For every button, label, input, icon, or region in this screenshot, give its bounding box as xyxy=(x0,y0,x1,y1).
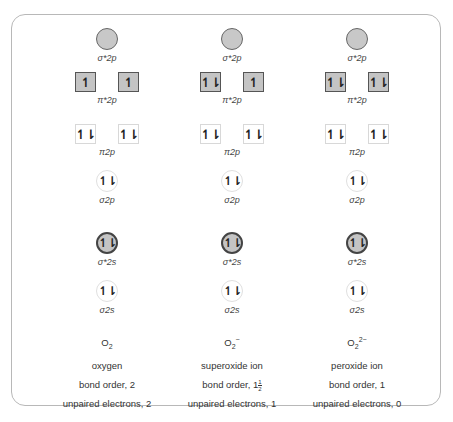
pi-star-2p-orbital: ↿ xyxy=(243,72,264,92)
sigma-2s-orbital: ↿⇂ xyxy=(221,280,243,302)
pi-star-2p-orbital: ↿⇂ xyxy=(325,72,346,92)
sigma-star-2p-level: σ*2p xyxy=(282,28,432,63)
pi-2p-orbital: ↿⇂ xyxy=(243,124,264,144)
orbital-label: σ*2s xyxy=(282,257,432,267)
sigma-2p-orbital: ↿⇂ xyxy=(221,170,243,192)
sigma-star-2s-orbital: ↿⇂ xyxy=(346,232,368,254)
sigma-2p-level: ↿⇂ σ2p xyxy=(282,170,432,205)
bond-order: bond order, 1 xyxy=(282,375,432,394)
orbital-label: π2p xyxy=(282,147,432,157)
sigma-2s-orbital: ↿⇂ xyxy=(346,280,368,302)
pi-star-2p-orbital: ↿ xyxy=(118,72,139,92)
unpaired-electrons: unpaired electrons, 0 xyxy=(282,394,432,413)
sigma-star-2s-orbital: ↿⇂ xyxy=(96,232,118,254)
sigma-2p-orbital: ↿⇂ xyxy=(96,170,118,192)
sigma-2p-orbital: ↿⇂ xyxy=(346,170,368,192)
sigma-2s-level: ↿⇂ σ2s xyxy=(282,280,432,315)
pi-2p-orbital: ↿⇂ xyxy=(118,124,139,144)
pi-star-2p-orbital: ↿⇂ xyxy=(200,72,221,92)
pi-2p-level: ↿⇂ ↿⇂ π2p xyxy=(282,124,432,157)
species-name: peroxide ion xyxy=(282,356,432,375)
orbital-label: σ2s xyxy=(282,305,432,315)
orbital-label: σ2p xyxy=(282,195,432,205)
pi-2p-orbital: ↿⇂ xyxy=(368,124,389,144)
orbital-label: π*2p xyxy=(282,95,432,105)
pi-star-2p-orbital: ↿⇂ xyxy=(368,72,389,92)
pi-star-2p-orbital: ↿ xyxy=(75,72,96,92)
sigma-star-2p-orbital xyxy=(221,28,243,50)
sigma-star-2p-orbital xyxy=(96,28,118,50)
column-peroxide: σ*2p ↿⇂ ↿⇂ π*2p ↿⇂ ↿⇂ π2p ↿⇂ σ2p ↿⇂ σ*2s… xyxy=(282,0,432,422)
pi-2p-orbital: ↿⇂ xyxy=(200,124,221,144)
sigma-star-2s-level: ↿⇂ σ*2s xyxy=(282,232,432,267)
fraction: 12 xyxy=(258,379,261,392)
pi-star-2p-level: ↿⇂ ↿⇂ π*2p xyxy=(282,72,432,105)
sigma-2s-orbital: ↿⇂ xyxy=(96,280,118,302)
species-formula: O22− xyxy=(282,330,432,356)
orbital-label: σ*2p xyxy=(282,53,432,63)
pi-2p-orbital: ↿⇂ xyxy=(75,124,96,144)
pi-2p-orbital: ↿⇂ xyxy=(325,124,346,144)
species-info: O22− peroxide ion bond order, 1 unpaired… xyxy=(282,330,432,413)
sigma-star-2s-orbital: ↿⇂ xyxy=(221,232,243,254)
sigma-star-2p-orbital xyxy=(346,28,368,50)
